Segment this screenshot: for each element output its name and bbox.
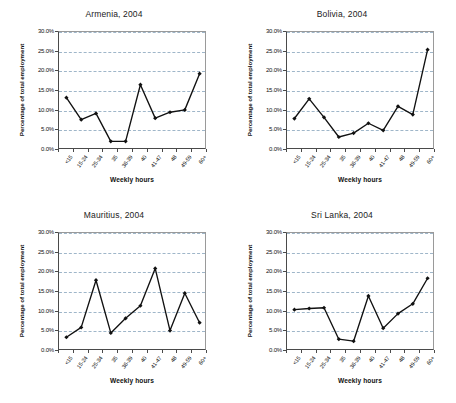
x-tick-mark [191,350,192,353]
y-tick-label: 5.0% [41,327,54,333]
data-point-marker [153,266,157,270]
x-tick-mark [434,350,435,353]
plot-area [286,31,434,149]
x-tick-mark [102,350,103,353]
y-tick-label: 25.0% [266,249,282,255]
x-axis-title: Weekly hours [286,377,434,384]
x-tick-mark [206,350,207,353]
series-line [294,50,427,137]
x-tick-mark [58,149,59,152]
y-tick-label: 20.0% [38,67,54,73]
y-axis-ticks: 0.0%5.0%10.0%15.0%20.0%25.0%30.0% [0,31,58,149]
x-axis-title: Weekly hours [58,377,206,384]
y-axis-ticks: 0.0%5.0%10.0%15.0%20.0%25.0%30.0% [228,31,286,149]
data-point-marker [337,337,341,341]
x-tick-mark [162,350,163,353]
data-point-marker [138,83,142,87]
y-tick-label: 0.0% [41,146,54,152]
panel-title: Sri Lanka, 2004 [228,210,456,220]
y-tick-label: 5.0% [41,126,54,132]
y-tick-label: 5.0% [269,126,282,132]
x-tick-mark [316,149,317,152]
data-point-marker [124,139,128,143]
panel-title: Bolivia, 2004 [228,9,456,19]
x-tick-mark [176,350,177,353]
x-tick-mark [176,149,177,152]
x-tick-mark [58,350,59,353]
data-point-marker [292,308,296,312]
x-tick-mark [286,350,287,353]
x-axis-title: Weekly hours [286,176,434,183]
y-axis-ticks: 0.0%5.0%10.0%15.0%20.0%25.0%30.0% [228,232,286,350]
series-armenia [287,32,435,150]
x-tick-mark [390,350,391,353]
x-tick-mark [73,149,74,152]
chart-panel-bolivia: Bolivia, 2004 Percentage of total employ… [228,0,456,201]
y-tick-label: 10.0% [266,308,282,314]
x-tick-mark [117,350,118,353]
data-point-marker [426,48,430,52]
x-axis-title: Weekly hours [58,176,206,183]
series-armenia [287,233,435,351]
y-tick-label: 15.0% [266,87,282,93]
y-tick-label: 20.0% [38,268,54,274]
x-tick-mark [286,149,287,152]
y-tick-label: 25.0% [266,48,282,54]
plot-area [58,232,206,350]
y-tick-label: 30.0% [266,28,282,34]
x-tick-mark [345,149,346,152]
series-line [66,268,199,337]
y-tick-label: 25.0% [38,249,54,255]
y-axis-ticks: 0.0%5.0%10.0%15.0%20.0%25.0%30.0% [0,232,58,350]
x-tick-mark [404,149,405,152]
y-tick-label: 15.0% [266,288,282,294]
y-tick-label: 10.0% [266,107,282,113]
series-armenia [59,32,207,150]
chart-panel-armenia: Armenia, 2004 Percentage of total employ… [0,0,228,201]
x-tick-mark [191,149,192,152]
chart-panel-mauritius: Mauritius, 2004 Percentage of total empl… [0,201,228,403]
y-tick-label: 0.0% [269,347,282,353]
x-tick-mark [132,149,133,152]
plot-area [58,31,206,149]
data-point-marker [153,116,157,120]
x-tick-mark [330,149,331,152]
series-line [294,278,427,341]
data-point-marker [352,339,356,343]
x-tick-mark [316,350,317,353]
y-tick-label: 0.0% [269,146,282,152]
x-tick-mark [147,149,148,152]
x-tick-mark [375,350,376,353]
multi-panel-line-chart-figure: Armenia, 2004 Percentage of total employ… [0,0,456,403]
series-line [66,74,199,142]
x-tick-mark [404,350,405,353]
x-tick-mark [206,149,207,152]
y-tick-label: 30.0% [38,229,54,235]
data-point-marker [307,306,311,310]
y-tick-label: 10.0% [38,308,54,314]
y-tick-label: 25.0% [38,48,54,54]
y-tick-label: 5.0% [269,327,282,333]
y-tick-label: 20.0% [266,67,282,73]
x-tick-mark [419,149,420,152]
data-point-marker [322,306,326,310]
y-tick-label: 30.0% [38,28,54,34]
data-point-marker [168,110,172,114]
data-point-marker [366,294,370,298]
data-point-marker [168,328,172,332]
data-point-marker [198,72,202,76]
x-tick-mark [330,350,331,353]
y-tick-label: 15.0% [38,87,54,93]
data-point-marker [94,278,98,282]
x-tick-mark [162,149,163,152]
plot-area [286,232,434,350]
x-tick-mark [132,350,133,353]
x-tick-mark [301,350,302,353]
chart-panel-sri-lanka: Sri Lanka, 2004 Percentage of total empl… [228,201,456,403]
panel-title: Mauritius, 2004 [0,210,228,220]
x-tick-mark [88,149,89,152]
x-tick-mark [117,149,118,152]
x-tick-mark [375,149,376,152]
data-point-marker [183,108,187,112]
x-tick-mark [73,350,74,353]
